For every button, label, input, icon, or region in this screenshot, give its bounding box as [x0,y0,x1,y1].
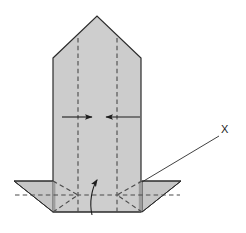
label-x: X [221,124,228,135]
left-edge-thickness-strip [52,181,55,212]
leader-line-to-x [142,136,219,182]
origami-diagram-canvas: X [0,0,246,233]
origami-illustration [0,0,246,233]
right-edge-thickness-strip [139,181,142,212]
body-shading-panel [78,18,117,210]
